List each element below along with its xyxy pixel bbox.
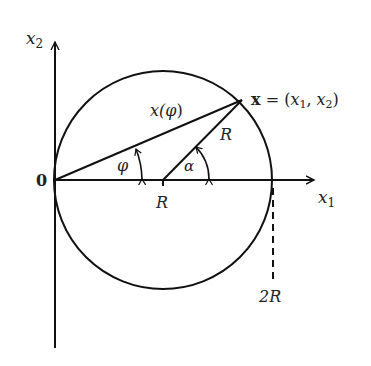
alpha-label: α bbox=[184, 157, 194, 175]
phi-angle-arc bbox=[136, 149, 142, 179]
x1-axis-label: x1 bbox=[318, 187, 335, 210]
phi-label: φ bbox=[117, 156, 129, 175]
x2-axis-label: x2 bbox=[26, 28, 43, 51]
origin-label: 0 bbox=[36, 171, 47, 190]
two-r-label: 2R bbox=[258, 287, 281, 306]
alpha-angle-arc bbox=[196, 147, 209, 179]
x-of-phi-label: x(φ) bbox=[150, 101, 183, 120]
circle-polar-diagram: x2 x1 0 φ α x(φ) R R 2R x = (x1, x2) bbox=[0, 0, 371, 366]
chord-x-phi bbox=[55, 100, 242, 180]
point-x-label: x = (x1, x2) bbox=[251, 90, 339, 111]
radius-label: R bbox=[219, 125, 232, 144]
center-r-label: R bbox=[155, 193, 168, 212]
